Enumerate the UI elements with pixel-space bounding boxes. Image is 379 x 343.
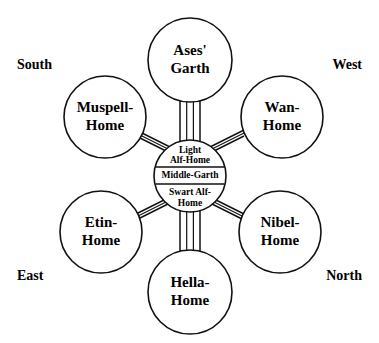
realm-ases-garth[interactable]: Ases' Garth [148,18,232,102]
realm-etin-home-line2: Home [82,232,121,248]
hub-swart-alf-home-line1: Swart Alf- [169,187,211,197]
compass-label-north: North [326,268,362,283]
compass-label-west: West [332,57,362,72]
realm-hella-home-line2: Home [171,292,210,308]
hub-light-alf-home-line2: Alf-Home [170,155,210,165]
realm-hella-home[interactable]: Hella- Home [148,250,232,334]
realm-etin-home[interactable]: Etin- Home [60,191,142,273]
realm-wan-home[interactable]: Wan- Home [241,76,323,158]
realm-ases-garth-line1: Ases' [173,42,206,58]
hub-light-alf-home-line1: Light [179,145,202,155]
compass-label-east: East [17,268,44,283]
realm-nibel-home[interactable]: Nibel- Home [239,191,321,273]
realm-ases-garth-line2: Garth [170,60,210,76]
diagram-canvas: Ases' Garth Muspell- Home Wan- Home Etin… [0,0,379,343]
hub-middle-garth-label: Middle-Garth [162,170,220,180]
cosmology-diagram: Ases' Garth Muspell- Home Wan- Home Etin… [0,0,379,343]
realm-muspell-home[interactable]: Muspell- Home [64,76,146,158]
realm-muspell-home-line1: Muspell- [77,99,134,115]
realm-etin-home-line1: Etin- [85,214,118,230]
realm-wan-home-line2: Home [263,117,302,133]
realm-hella-home-line1: Hella- [170,274,209,290]
hub-swart-alf-home-line2: Home [178,198,202,208]
realm-nibel-home-line2: Home [261,232,300,248]
compass-label-south: South [17,57,52,72]
realm-nibel-home-line1: Nibel- [260,214,299,230]
realm-muspell-home-line2: Home [86,117,125,133]
realm-wan-home-line1: Wan- [264,99,299,115]
hub-middle-garth[interactable]: Light Alf-Home Middle-Garth Swart Alf- H… [154,140,226,212]
